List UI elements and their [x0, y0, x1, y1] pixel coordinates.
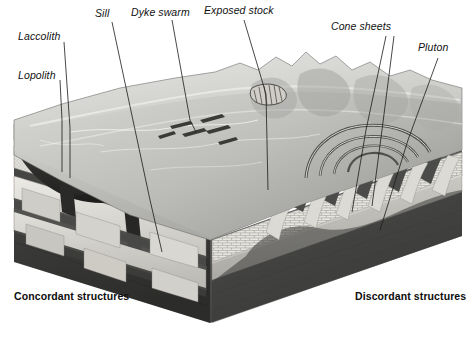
label-exposed-stock: Exposed stock	[204, 4, 274, 16]
exposed-stock-outcrop	[250, 84, 286, 105]
label-laccolith: Laccolith	[18, 30, 60, 42]
label-lopolith: Lopolith	[18, 69, 56, 81]
label-dyke-swarm: Dyke swarm	[131, 6, 190, 18]
caption-discordant-structures: Discordant structures	[355, 290, 466, 302]
geology-block-diagram-figure: Laccolith Lopolith Sill Dyke swarm Expos…	[0, 0, 472, 352]
caption-concordant-structures: Concordant structures	[14, 290, 129, 302]
label-cone-sheets: Cone sheets	[331, 20, 391, 32]
label-sill: Sill	[95, 7, 109, 19]
label-pluton: Pluton	[418, 41, 448, 53]
